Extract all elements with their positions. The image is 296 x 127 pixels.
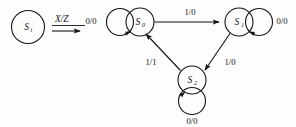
edge-label-s1-self: 0/0 (277, 16, 288, 26)
state-node-s2-label: S (188, 75, 193, 85)
diagram-canvas: S i X/Z 0/0 0/0 0/0 1/0 1/0 1/1 S 0 (0, 0, 296, 127)
state-node-s2-subscript: 2 (194, 79, 197, 86)
state-node-s1-label: S (235, 17, 240, 27)
state-node-s1-subscript: 1 (241, 21, 244, 28)
edge-label-s0-to-s1: 1/0 (185, 7, 196, 17)
edge-label-s1-to-s2: 1/0 (225, 57, 236, 67)
state-node-si-subscript: i (31, 26, 33, 33)
state-node-s0-subscript: 0 (142, 21, 146, 28)
edge-label-s2-to-s0: 1/1 (146, 57, 157, 67)
edge-s2-self-loop (179, 88, 206, 115)
edge-label-s2-self: 0/0 (187, 116, 198, 126)
state-diagram-figure: S i X/Z 0/0 0/0 0/0 1/0 1/0 1/1 S 0 (0, 0, 296, 127)
transform-label-xz: X/Z (54, 14, 69, 24)
state-node-s0-label: S (136, 17, 141, 27)
edge-label-s0-self: 0/0 (86, 16, 97, 26)
state-node-si-label: S (24, 22, 29, 32)
